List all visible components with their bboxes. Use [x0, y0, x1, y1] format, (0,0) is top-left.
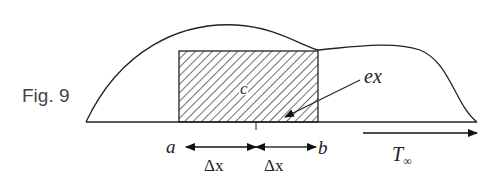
figure-caption: Fig. 9 — [22, 85, 70, 106]
figure-diagram: Fig. 9 c c ex a b Δx Δx T∞ — [0, 0, 499, 179]
flow-symbol-label: T∞ — [392, 143, 412, 168]
flow-subscript: ∞ — [403, 154, 412, 168]
annotation-label: ex — [364, 65, 382, 87]
right-delta-x-label: Δx — [264, 156, 284, 175]
point-a-label: a — [166, 136, 176, 157]
point-b-label: b — [318, 137, 328, 158]
center-label-fg: c — [240, 79, 248, 98]
left-delta-x-label: Δx — [204, 156, 224, 175]
